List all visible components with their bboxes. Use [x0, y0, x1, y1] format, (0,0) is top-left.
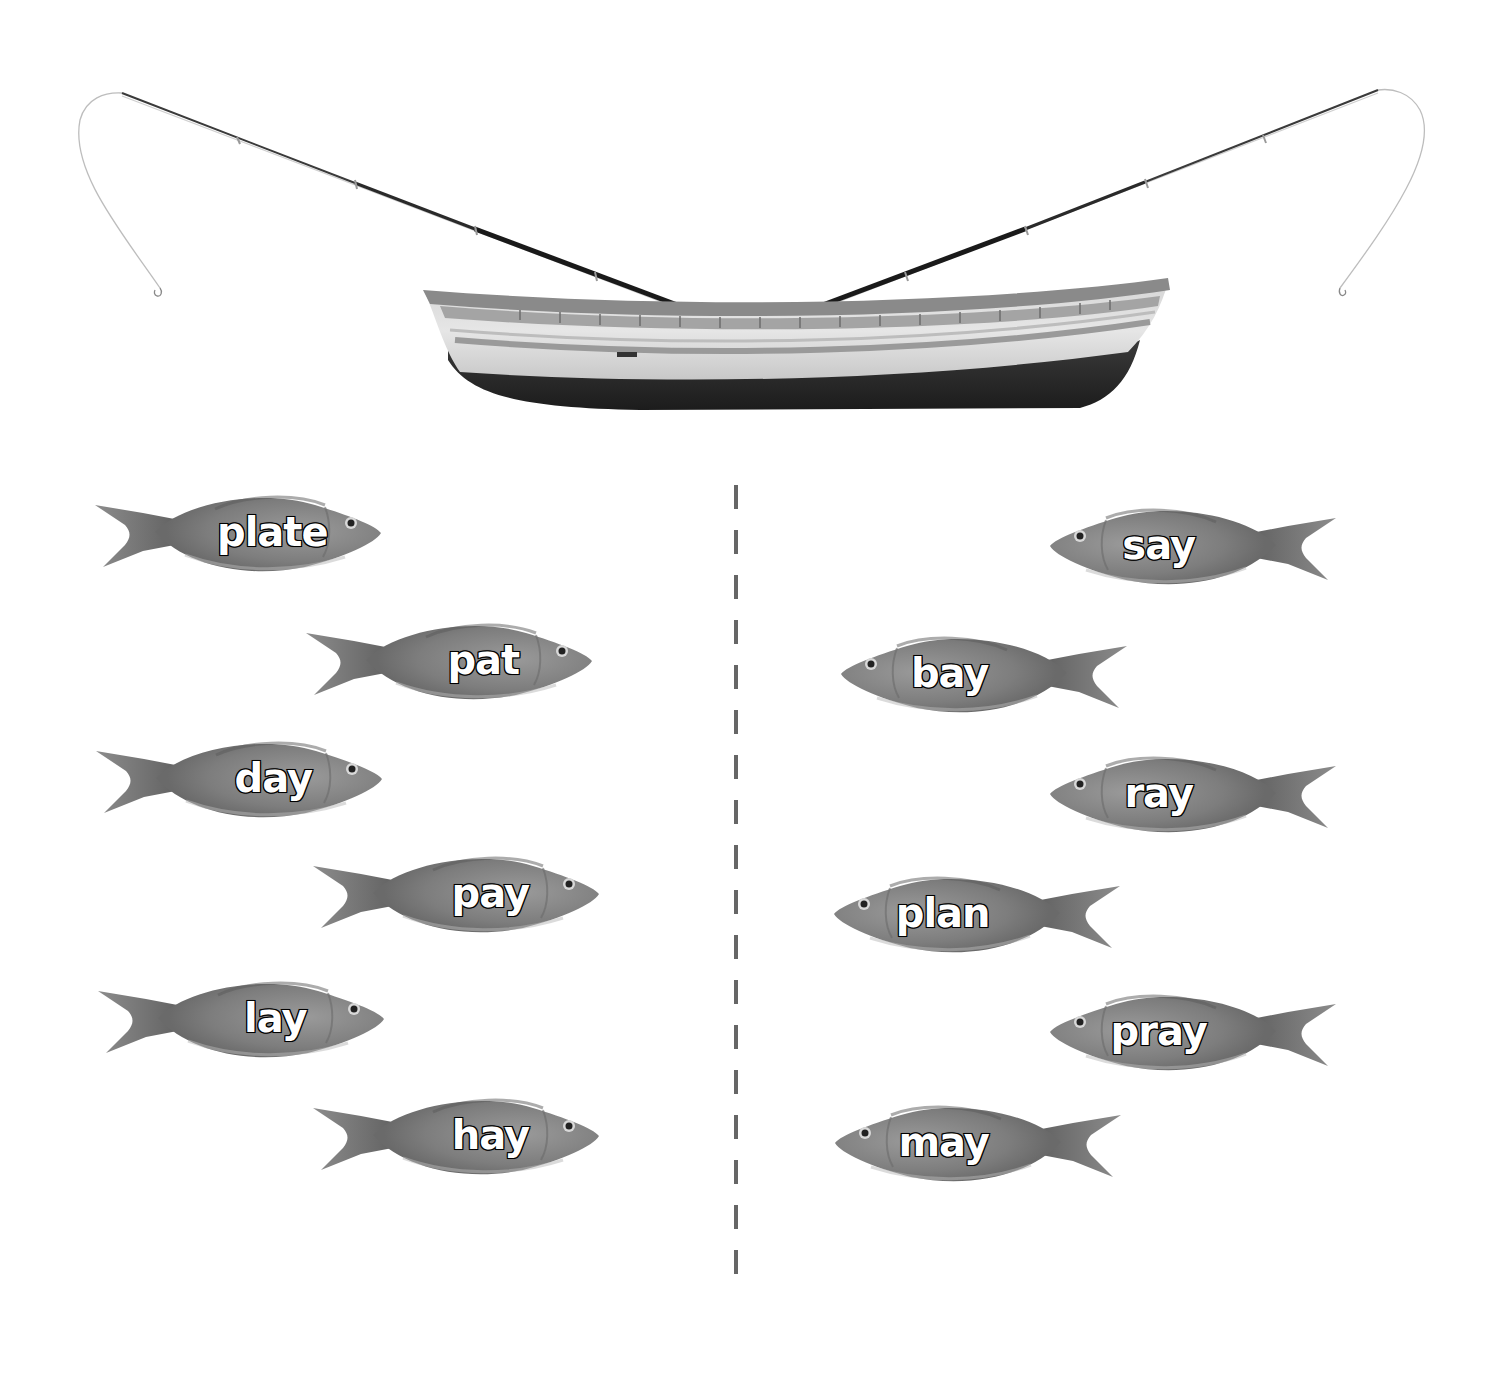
fish-word: plate	[217, 512, 328, 552]
fish-card-lay[interactable]: lay	[98, 973, 384, 1065]
fish-word: ray	[1124, 773, 1193, 813]
fish-word: pat	[447, 640, 519, 680]
fish-icon	[98, 973, 384, 1065]
fish-card-plan[interactable]: plan	[834, 868, 1120, 960]
fish-word: may	[898, 1122, 989, 1162]
fish-word: pay	[452, 873, 529, 913]
fish-word: day	[235, 758, 312, 798]
fish-word: hay	[452, 1115, 529, 1155]
fish-card-ray[interactable]: ray	[1050, 748, 1336, 840]
fish-word: bay	[911, 653, 988, 693]
fish-card-may[interactable]: may	[835, 1097, 1121, 1189]
fish-card-hay[interactable]: hay	[313, 1090, 599, 1182]
fish-card-pay[interactable]: pay	[313, 848, 599, 940]
fish-card-day[interactable]: day	[96, 733, 382, 825]
fish-word: pray	[1111, 1011, 1207, 1051]
fish-word: say	[1122, 525, 1195, 565]
fish-card-say[interactable]: say	[1050, 500, 1336, 592]
fish-card-plate[interactable]: plate	[95, 487, 381, 579]
fish-word: plan	[896, 893, 990, 933]
fish-card-pray[interactable]: pray	[1050, 986, 1336, 1078]
boat-icon	[0, 0, 1497, 1373]
fish-word: lay	[244, 998, 307, 1038]
fish-card-pat[interactable]: pat	[306, 615, 592, 707]
fish-card-bay[interactable]: bay	[841, 628, 1127, 720]
dashed-divider	[733, 485, 739, 1295]
